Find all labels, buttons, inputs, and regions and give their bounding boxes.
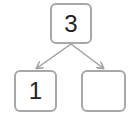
whole-value: 3 xyxy=(64,10,77,38)
part-value-left: 1 xyxy=(29,77,42,105)
part-box-right[interactable] xyxy=(81,70,126,112)
arrow-left xyxy=(37,44,71,68)
arrow-right xyxy=(71,44,103,68)
part-box-left: 1 xyxy=(14,70,57,112)
whole-box: 3 xyxy=(50,3,92,44)
